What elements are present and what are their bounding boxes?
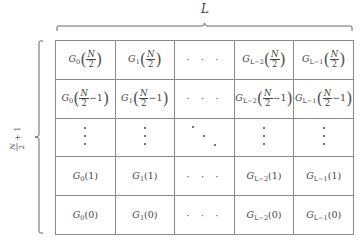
vdots-icon <box>322 125 326 147</box>
cell-g1-n-half-minus-1: G1(N2−1) <box>115 79 175 118</box>
cell-gl2-0: GL−2(0) <box>234 196 294 235</box>
table-row <box>56 118 354 157</box>
svg-text:2: 2 <box>18 145 26 149</box>
cell-g1-1: G1(1) <box>115 157 175 196</box>
table-row: G0(1) G1(1) · · · GL−2(1) GL−1(1) <box>56 157 354 196</box>
cell-vdots <box>234 118 294 157</box>
cell-vdots <box>294 118 354 157</box>
svg-text:N: N <box>8 142 17 151</box>
cell-ddots <box>175 118 235 157</box>
svg-text:+ 1: + 1 <box>13 127 22 141</box>
vdots-icon <box>83 125 87 147</box>
ddots-icon <box>189 124 219 148</box>
cell-gl2-n-half-minus-1: GL−2(N2−1) <box>234 79 294 118</box>
top-brace-icon <box>56 22 353 32</box>
cell-hdots: · · · <box>175 41 235 80</box>
cell-g0-1: G0(1) <box>56 157 116 196</box>
cell-g1-n-half: G1(N2) <box>115 41 175 80</box>
table-row: G0(0) G1(0) · · · GL−2(0) GL−1(0) <box>56 196 354 235</box>
left-brace-icon <box>34 40 44 234</box>
cell-gl1-n-half-minus-1: GL−1(N2−1) <box>294 79 354 118</box>
columns-count-label: L <box>198 2 212 16</box>
vdots-icon <box>143 125 147 147</box>
cell-gl1-n-half: GL−1(N2) <box>294 41 354 80</box>
cell-g0-n-half-minus-1: G0(N2−1) <box>56 79 116 118</box>
matrix-grid: G0(N2) G1(N2) · · · GL−2(N2) GL−1(N2) G0… <box>55 40 354 235</box>
cell-hdots: · · · <box>175 196 235 235</box>
table-row: G0(N2−1) G1(N2−1) · · · GL−2(N2−1) GL−1(… <box>56 79 354 118</box>
cell-gl1-1: GL−1(1) <box>294 157 354 196</box>
cell-gl2-n-half: GL−2(N2) <box>234 41 294 80</box>
rows-count-label: N 2 + 1 <box>4 124 30 154</box>
cell-g0-n-half: G0(N2) <box>56 41 116 80</box>
cell-g0-0: G0(0) <box>56 196 116 235</box>
cell-vdots <box>115 118 175 157</box>
vdots-icon <box>262 125 266 147</box>
cell-hdots: · · · <box>175 79 235 118</box>
cell-hdots: · · · <box>175 157 235 196</box>
cell-gl2-1: GL−2(1) <box>234 157 294 196</box>
cell-vdots <box>56 118 116 157</box>
table-row: G0(N2) G1(N2) · · · GL−2(N2) GL−1(N2) <box>56 41 354 80</box>
cell-g1-0: G1(0) <box>115 196 175 235</box>
cell-gl1-0: GL−1(0) <box>294 196 354 235</box>
